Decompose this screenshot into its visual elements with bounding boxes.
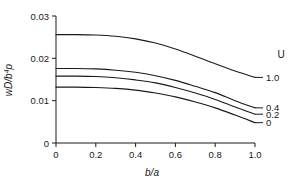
data-curves <box>56 35 255 123</box>
axis-ticks <box>52 16 255 147</box>
x-tick-label: 0.6 <box>169 149 182 160</box>
y-tick-labels: 00.010.020.03 <box>31 11 50 149</box>
chart-figure: 00.20.40.60.81.0 00.010.020.03 1.00.40.2… <box>0 0 306 184</box>
legend-title: U <box>277 49 284 60</box>
data-curve <box>56 87 255 123</box>
data-curve <box>56 35 255 78</box>
data-curve <box>56 68 255 107</box>
y-tick-label: 0.01 <box>31 95 50 106</box>
y-tick-label: 0.02 <box>31 53 50 64</box>
x-tick-label: 0.4 <box>129 149 142 160</box>
x-tick-label: 0.2 <box>89 149 102 160</box>
x-tick-label: 1.0 <box>248 149 261 160</box>
chart-canvas: 00.20.40.60.81.0 00.010.020.03 1.00.40.2… <box>0 0 306 184</box>
y-tick-label: 0 <box>44 138 49 149</box>
x-tick-label: 0 <box>53 149 58 160</box>
legend-curve-label: 0 <box>266 117 271 128</box>
legend: 1.00.40.20 <box>255 72 279 128</box>
x-tick-label: 0.8 <box>209 149 222 160</box>
legend-curve-label: 1.0 <box>266 72 279 83</box>
x-axis-title: b/a <box>145 167 159 178</box>
svg-text:wD/b4p: wD/b4p <box>3 63 14 96</box>
y-tick-label: 0.03 <box>31 11 50 22</box>
y-axis-title: wD/b4p <box>3 63 14 96</box>
data-curve <box>56 76 255 114</box>
x-tick-labels: 00.20.40.60.81.0 <box>53 149 261 160</box>
